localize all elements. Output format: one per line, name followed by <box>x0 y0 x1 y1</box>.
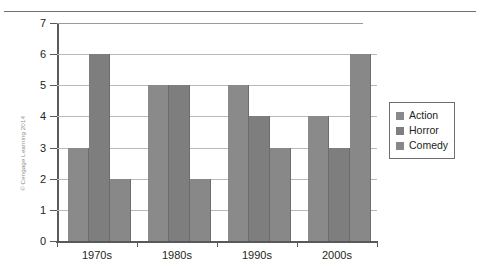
y-axis-tick <box>50 116 57 117</box>
x-axis-label: 1970s <box>57 249 137 261</box>
y-axis-label: 5 <box>28 79 46 91</box>
x-axis-tick <box>377 241 378 247</box>
bar-group <box>308 23 371 241</box>
legend-item: Comedy <box>396 138 449 153</box>
x-axis-tick <box>57 241 58 247</box>
bar <box>110 179 131 241</box>
bar <box>148 85 169 241</box>
bar <box>329 148 350 241</box>
y-axis-tick <box>50 241 57 242</box>
y-axis-tick <box>50 148 57 149</box>
bar <box>89 54 110 241</box>
bar-group <box>68 23 131 241</box>
legend-item-label: Comedy <box>409 140 448 151</box>
y-axis-label: 3 <box>28 142 46 154</box>
bar <box>350 54 371 241</box>
bar <box>190 179 211 241</box>
legend-swatch-icon <box>396 112 404 120</box>
bar <box>308 116 329 241</box>
bar-group <box>148 23 211 241</box>
bar-chart-figure: © Cengage Learning 2014 01234567 Action … <box>0 0 480 279</box>
bar <box>68 148 89 241</box>
y-axis-tick <box>50 54 57 55</box>
y-axis-label: 6 <box>28 48 46 60</box>
legend-item-label: Horror <box>409 125 439 136</box>
x-axis-tick <box>297 241 298 247</box>
legend-item: Action <box>396 108 449 123</box>
y-axis-label: 1 <box>28 204 46 216</box>
bar <box>228 85 249 241</box>
y-axis-tick <box>50 179 57 180</box>
y-axis-tick <box>50 23 57 24</box>
x-axis-tick <box>137 241 138 247</box>
bar <box>169 85 190 241</box>
legend-item-label: Action <box>409 110 438 121</box>
legend-item: Horror <box>396 123 449 138</box>
chart-legend: Action Horror Comedy <box>389 102 455 159</box>
figure-top-rule <box>4 11 476 12</box>
y-axis-label: 0 <box>28 235 46 247</box>
y-axis-label: 4 <box>28 110 46 122</box>
y-axis-label: 2 <box>28 173 46 185</box>
x-axis-label: 1980s <box>137 249 217 261</box>
bar-group <box>228 23 291 241</box>
y-axis-tick <box>50 210 57 211</box>
x-axis-label: 2000s <box>297 249 377 261</box>
y-axis-tick <box>50 85 57 86</box>
plot-area <box>57 23 377 241</box>
x-axis-tick <box>217 241 218 247</box>
y-axis-label: 7 <box>28 17 46 29</box>
bar <box>270 148 291 241</box>
bar <box>249 116 270 241</box>
legend-swatch-icon <box>396 127 404 135</box>
legend-swatch-icon <box>396 142 404 150</box>
y-axis-labels: 01234567 <box>14 0 46 279</box>
x-axis-label: 1990s <box>217 249 297 261</box>
